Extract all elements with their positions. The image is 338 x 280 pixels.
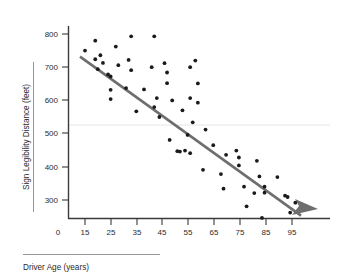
data-point	[150, 65, 154, 69]
data-point	[183, 149, 187, 153]
data-point	[165, 71, 169, 75]
data-point	[188, 96, 192, 100]
data-point	[186, 133, 190, 137]
data-point	[237, 156, 241, 160]
data-point	[155, 96, 159, 100]
data-point	[258, 175, 262, 179]
x-tick-label-95: 95	[288, 228, 297, 237]
x-tick-label-55: 55	[184, 228, 193, 237]
y-tick-label-400: 400	[45, 163, 59, 172]
data-point	[188, 65, 192, 69]
x-tick-label-35: 35	[133, 228, 142, 237]
data-point	[109, 75, 113, 79]
data-point	[181, 108, 185, 112]
data-points-layer	[83, 34, 297, 219]
data-point	[219, 172, 223, 176]
data-point	[196, 82, 200, 86]
x-tick-label-75: 75	[236, 228, 245, 237]
data-point	[93, 39, 97, 43]
data-point	[193, 59, 197, 63]
data-point	[152, 34, 156, 38]
data-point	[116, 63, 120, 67]
y-axis-title: Sign Legibility Distance (feet)	[22, 84, 31, 190]
data-point	[286, 195, 290, 199]
trend-line-group	[80, 57, 318, 216]
data-point	[288, 211, 292, 215]
data-point	[255, 159, 259, 163]
trend-line	[80, 57, 301, 216]
data-point	[129, 34, 133, 38]
data-point	[165, 81, 169, 85]
scatter-plot-figure: 800 700 600 500 400 300 15 25 35 45 55 6…	[0, 0, 338, 280]
data-point	[234, 149, 238, 153]
y-axis-title-group: Sign Legibility Distance (feet)	[22, 62, 34, 212]
y-tick-label-600: 600	[45, 96, 59, 105]
data-point	[224, 153, 228, 157]
y-tick-label-700: 700	[45, 63, 59, 72]
y-tick-label-300: 300	[45, 196, 59, 205]
x-tick-label-45: 45	[158, 228, 167, 237]
data-point	[245, 204, 249, 208]
x-axis: 15 25 35 45 55 65 75 85 95 0	[56, 218, 330, 237]
data-point	[242, 185, 246, 189]
data-point	[127, 58, 131, 62]
data-point	[114, 45, 118, 49]
data-point	[263, 185, 267, 189]
data-point	[196, 101, 200, 105]
y-tick-label-800: 800	[45, 30, 59, 39]
data-point	[157, 115, 161, 119]
data-point	[178, 150, 182, 154]
y-tick-label-500: 500	[45, 129, 59, 138]
data-point	[170, 99, 174, 103]
data-point	[275, 175, 279, 179]
data-point	[101, 61, 105, 65]
data-point	[260, 216, 264, 220]
x-axis-title-group: Driver Age (years)	[23, 255, 160, 273]
data-point	[211, 143, 215, 147]
data-point	[152, 105, 156, 109]
data-point	[222, 187, 226, 191]
data-point	[293, 201, 297, 205]
data-point	[83, 49, 87, 53]
data-point	[109, 97, 113, 101]
chart-canvas: 800 700 600 500 400 300 15 25 35 45 55 6…	[0, 0, 338, 280]
data-point	[93, 57, 97, 61]
x-tick-label-85: 85	[262, 228, 271, 237]
data-point	[96, 67, 100, 71]
data-point	[168, 138, 172, 142]
data-point	[98, 53, 102, 57]
data-point	[204, 128, 208, 132]
x-tick-label-15: 15	[81, 228, 90, 237]
x-tick-label-65: 65	[210, 228, 219, 237]
data-point	[109, 88, 113, 92]
x-tick-label-25: 25	[107, 228, 116, 237]
data-point	[263, 191, 267, 195]
data-point	[237, 164, 241, 168]
data-point	[252, 191, 256, 195]
data-point	[201, 168, 205, 172]
data-point	[134, 109, 138, 113]
data-point	[191, 120, 195, 124]
origin-label: 0	[56, 228, 61, 237]
data-point	[188, 151, 192, 155]
data-point	[124, 86, 128, 90]
data-point	[163, 61, 167, 65]
data-point	[142, 88, 146, 92]
data-point	[129, 68, 133, 72]
x-axis-title: Driver Age (years)	[23, 263, 89, 272]
y-axis: 800 700 600 500 400 300	[45, 26, 69, 219]
